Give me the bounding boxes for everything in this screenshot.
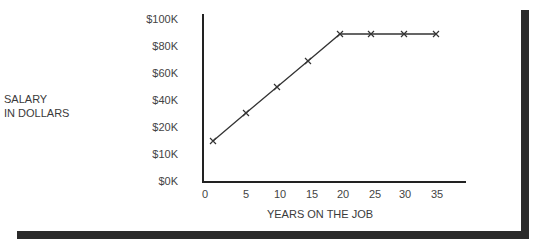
x-tick-label: 10 xyxy=(268,188,292,200)
x-tick-label: 5 xyxy=(234,188,258,200)
x-tick-label: 0 xyxy=(193,188,217,200)
x-tick-label: 35 xyxy=(425,188,449,200)
x-marker-icon xyxy=(305,58,311,64)
x-marker-icon xyxy=(243,110,249,116)
x-tick-label: 25 xyxy=(363,188,387,200)
x-tick-label: 30 xyxy=(393,188,417,200)
x-axis-title: YEARS ON THE JOB xyxy=(220,208,420,220)
salary-line xyxy=(213,34,436,141)
x-tick-label: 15 xyxy=(300,188,324,200)
x-tick-label: 20 xyxy=(331,188,355,200)
data-markers xyxy=(210,31,439,144)
x-marker-icon xyxy=(210,138,216,144)
x-marker-icon xyxy=(274,84,280,90)
